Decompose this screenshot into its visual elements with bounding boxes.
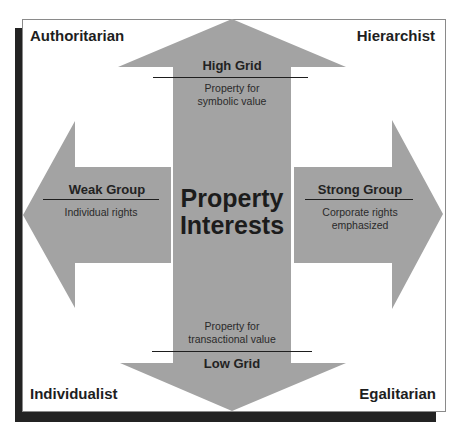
corner-label-egalitarian: Egalitarian: [359, 385, 436, 402]
low-grid-description-line1: Property for: [173, 320, 291, 333]
weak-group-description: Individual rights: [43, 206, 159, 219]
corner-label-individualist: Individualist: [30, 385, 118, 402]
low-grid-heading: Low Grid: [173, 356, 291, 371]
corner-label-hierarchist: Hierarchist: [357, 27, 435, 44]
center-label-line2: Interests: [173, 212, 291, 239]
weak-group-divider: [43, 199, 159, 200]
strong-group-description-line2: emphasized: [300, 219, 420, 232]
high-grid-description-line2: symbolic value: [173, 95, 291, 108]
strong-group-heading: Strong Group: [300, 182, 420, 197]
high-grid-description-line1: Property for: [173, 82, 291, 95]
corner-label-authoritarian: Authoritarian: [30, 27, 124, 44]
high-grid-divider: [153, 77, 308, 78]
center-label-line1: Property: [173, 185, 291, 212]
high-grid-heading: High Grid: [173, 58, 291, 73]
low-grid-description-line2: transactional value: [173, 333, 291, 346]
strong-group-description-line1: Corporate rights: [300, 206, 420, 219]
strong-group-divider: [305, 199, 413, 200]
weak-group-heading: Weak Group: [43, 182, 171, 197]
low-grid-divider: [152, 351, 312, 352]
